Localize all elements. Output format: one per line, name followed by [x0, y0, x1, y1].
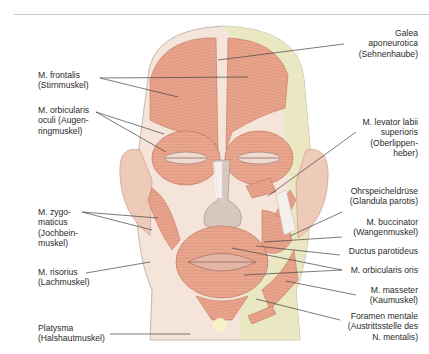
- label-levator-labii: M. levator labii superioris (Oberlippen-…: [363, 117, 418, 159]
- label-galea-aponeurotica: Galea aponeurotica (Sehnenhaube): [359, 28, 418, 59]
- label-orbicularis-oculi: M. orbicularis oculi (Augen- ringmuskel): [38, 105, 89, 136]
- label-parotis: Ohrspeicheldrüse (Glandula parotis): [350, 186, 418, 207]
- label-zygomaticus: M. zygo- maticus (Jochbein- muskel): [38, 207, 78, 249]
- label-ductus-parotideus: Ductus parotideus: [349, 246, 418, 256]
- label-buccinator: M. buccinator (Wangenmuskel): [353, 217, 418, 238]
- orbicularis-oris-muscle: [176, 226, 268, 298]
- label-foramen-mentale: Foramen mentale (Austrittsstelle des N. …: [348, 311, 418, 342]
- label-orbicularis-oris: M. orbicularis oris: [351, 265, 418, 275]
- label-frontalis: M. frontalis (Stirnmuskel): [38, 70, 89, 91]
- label-risorius: M. risorius (Lachmuskel): [38, 267, 90, 288]
- label-masseter: M. masseter (Kaumuskel): [370, 285, 418, 306]
- label-platysma: Platysma (Halshautmuskel): [38, 323, 105, 344]
